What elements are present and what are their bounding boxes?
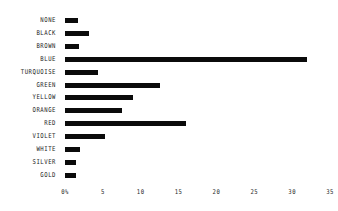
bar-track <box>65 156 330 169</box>
bar <box>65 95 133 100</box>
bar-row: BLUE <box>0 53 338 66</box>
bar-track <box>65 143 330 156</box>
x-axis-tick-label: 10 <box>137 185 145 199</box>
bar <box>65 70 98 75</box>
x-axis: 0%5101520253035 <box>0 186 338 202</box>
bar-category-label: GOLD <box>0 168 56 183</box>
bar <box>65 160 76 165</box>
horizontal-bar-chart: NONEBLACKBROWNBLUETURQUOISEGREENYELLOWOR… <box>0 0 338 211</box>
bar-row: TURQUOISE <box>0 66 338 79</box>
bar <box>65 134 105 139</box>
bar <box>65 121 186 126</box>
bar <box>65 147 80 152</box>
bar-track <box>65 40 330 53</box>
bar <box>65 31 89 36</box>
bar <box>65 57 307 62</box>
bar-track <box>65 91 330 104</box>
bar-track <box>65 117 330 130</box>
plot-area: NONEBLACKBROWNBLUETURQUOISEGREENYELLOWOR… <box>0 0 338 211</box>
x-axis-tick-label: 0% <box>61 185 69 199</box>
x-axis-tick-label: 25 <box>250 185 258 199</box>
x-axis-tick-label: 20 <box>213 185 221 199</box>
bar-track <box>65 130 330 143</box>
bar <box>65 173 76 178</box>
bar-row: GOLD <box>0 169 338 182</box>
bar-track <box>65 66 330 79</box>
bar <box>65 108 122 113</box>
bar <box>65 44 79 49</box>
bar-track <box>65 14 330 27</box>
bar-track <box>65 104 330 117</box>
bar <box>65 83 160 88</box>
x-axis-tick-label: 15 <box>175 185 183 199</box>
bar-track <box>65 53 330 66</box>
bar <box>65 18 78 23</box>
x-axis-tick-label: 30 <box>288 185 296 199</box>
bar-track <box>65 169 330 182</box>
x-axis-tick-label: 5 <box>101 185 105 199</box>
bar-track <box>65 79 330 92</box>
bar-track <box>65 27 330 40</box>
x-axis-tick-label: 35 <box>326 185 334 199</box>
